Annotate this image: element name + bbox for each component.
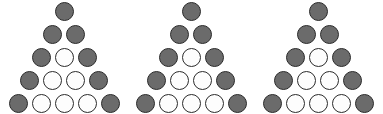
filled-dot	[170, 25, 189, 44]
filled-dot	[228, 94, 247, 113]
triangle-3-row-2	[254, 23, 382, 45]
triangle-2	[127, 0, 255, 114]
triangle-1	[0, 0, 128, 114]
dot-triangle-figure	[0, 0, 383, 114]
open-dot	[170, 71, 189, 90]
open-dot	[32, 94, 51, 113]
filled-dot	[355, 94, 374, 113]
open-dot	[286, 94, 305, 113]
triangle-1-row-3	[0, 46, 128, 68]
open-dot	[159, 94, 178, 113]
filled-dot	[274, 71, 293, 90]
filled-dot	[89, 71, 108, 90]
filled-dot	[343, 71, 362, 90]
triangle-2-row-4	[127, 69, 255, 91]
triangle-3	[254, 0, 382, 114]
filled-dot	[205, 48, 224, 67]
triangle-3-row-4	[254, 69, 382, 91]
triangle-1-row-2	[0, 23, 128, 45]
filled-dot	[9, 94, 28, 113]
triangle-2-row-1	[127, 0, 255, 22]
triangle-1-row-5	[0, 92, 128, 114]
open-dot	[205, 94, 224, 113]
filled-dot	[286, 48, 305, 67]
open-dot	[182, 48, 201, 67]
open-dot	[332, 94, 351, 113]
triangle-2-row-2	[127, 23, 255, 45]
filled-dot	[55, 2, 74, 21]
filled-dot	[43, 25, 62, 44]
open-dot	[55, 48, 74, 67]
filled-dot	[66, 25, 85, 44]
triangle-1-row-1	[0, 0, 128, 22]
filled-dot	[101, 94, 120, 113]
open-dot	[78, 94, 97, 113]
triangle-3-row-5	[254, 92, 382, 114]
open-dot	[43, 71, 62, 90]
open-dot	[182, 94, 201, 113]
filled-dot	[193, 25, 212, 44]
filled-dot	[147, 71, 166, 90]
triangle-2-row-3	[127, 46, 255, 68]
triangle-3-row-3	[254, 46, 382, 68]
open-dot	[297, 71, 316, 90]
filled-dot	[216, 71, 235, 90]
filled-dot	[309, 2, 328, 21]
open-dot	[309, 48, 328, 67]
filled-dot	[320, 25, 339, 44]
filled-dot	[32, 48, 51, 67]
triangle-1-row-4	[0, 69, 128, 91]
filled-dot	[332, 48, 351, 67]
filled-dot	[263, 94, 282, 113]
filled-dot	[136, 94, 155, 113]
filled-dot	[297, 25, 316, 44]
open-dot	[193, 71, 212, 90]
open-dot	[309, 94, 328, 113]
open-dot	[320, 71, 339, 90]
triangle-2-row-5	[127, 92, 255, 114]
filled-dot	[182, 2, 201, 21]
filled-dot	[20, 71, 39, 90]
triangle-3-row-1	[254, 0, 382, 22]
filled-dot	[78, 48, 97, 67]
filled-dot	[159, 48, 178, 67]
open-dot	[66, 71, 85, 90]
open-dot	[55, 94, 74, 113]
